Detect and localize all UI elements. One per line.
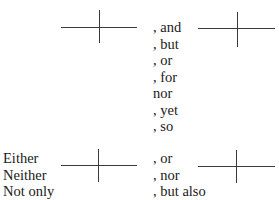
starter-neither: Neither [3, 167, 54, 184]
right-clause-divider [237, 12, 238, 47]
conjunction-but: , but [153, 36, 181, 53]
conjunction-for: , for [153, 69, 181, 86]
conjunction-or: , or [153, 52, 181, 69]
left-clause-divider [99, 10, 100, 43]
conjunction-and: , and [153, 19, 181, 36]
starter-not-only: Not only [3, 183, 54, 200]
starter-either: Either [3, 150, 54, 167]
conjunction-nor: nor [153, 85, 181, 102]
conjunction-so: , so [153, 118, 181, 135]
left-clause-line-bottom [61, 165, 137, 166]
left-clause-divider-bottom [98, 149, 99, 182]
correlative-starter-list: Either Neither Not only [3, 150, 54, 200]
connector-or: , or [153, 150, 206, 167]
connector-but-also: , but also [153, 183, 206, 200]
connector-nor: , nor [153, 167, 206, 184]
correlative-connector-list: , or , nor , but also [153, 150, 206, 200]
conjunction-yet: , yet [153, 102, 181, 119]
right-clause-divider-bottom [236, 150, 237, 183]
coordinating-conjunction-list: , and , but , or , for nor , yet , so [153, 19, 181, 135]
